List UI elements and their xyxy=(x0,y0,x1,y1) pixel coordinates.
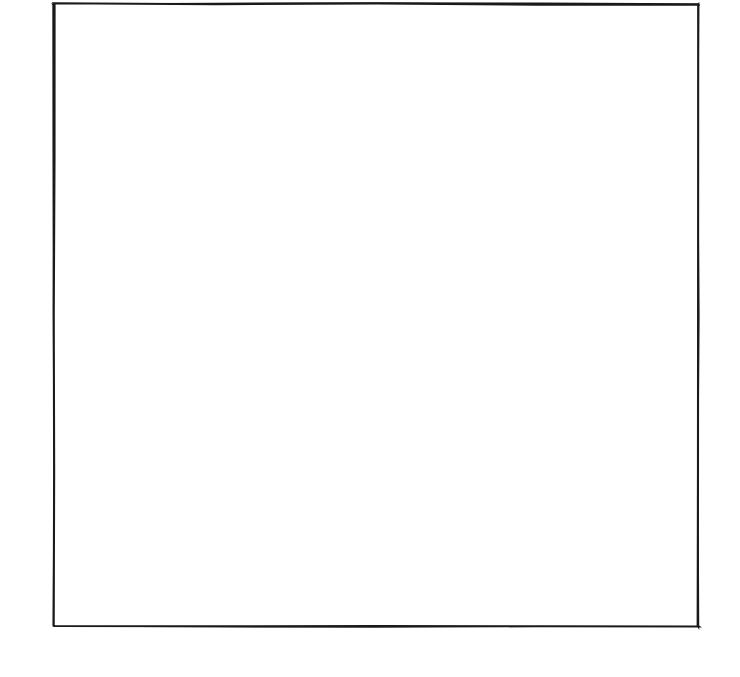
figure-canvas xyxy=(0,0,740,677)
quilt-svg-surface xyxy=(0,0,740,677)
quilt-outer-binding-overlay xyxy=(54,3,699,626)
quilt-diagram xyxy=(0,0,740,677)
